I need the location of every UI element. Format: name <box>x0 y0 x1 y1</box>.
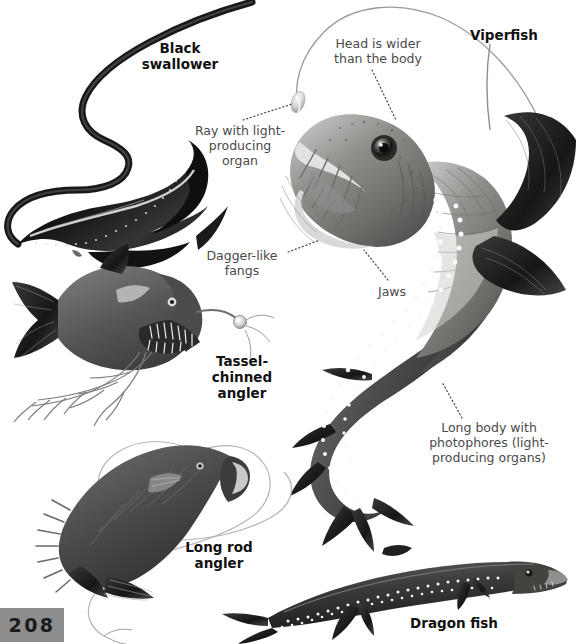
book-page: Black swallower Viperfish Head is wider … <box>0 0 576 644</box>
leader-head-wider <box>372 70 396 120</box>
label-black-swallower: Black swallower <box>120 40 240 72</box>
label-head-is-wider: Head is wider than the body <box>322 36 434 66</box>
label-dragon-fish: Dragon fish <box>398 615 510 631</box>
leader-long-body <box>442 382 462 418</box>
page-number-plate: 208 <box>0 608 64 642</box>
leader-ray-light <box>243 104 292 120</box>
label-ray-with-light-organ: Ray with light- producing organ <box>188 123 292 168</box>
leader-jaws <box>364 250 388 280</box>
label-dagger-like-fangs: Dagger-like fangs <box>192 248 292 278</box>
label-jaws: Jaws <box>362 284 422 299</box>
label-tassel-chinned-angler: Tassel- chinned angler <box>196 353 288 401</box>
page-number: 208 <box>8 614 55 636</box>
label-long-body-photophores: Long body with photophores (light- produ… <box>410 420 568 465</box>
leader-dagger-fangs <box>288 240 320 252</box>
label-long-rod-angler: Long rod angler <box>164 539 274 571</box>
callout-leader-lines <box>0 0 576 644</box>
label-viperfish: Viperfish <box>452 27 556 43</box>
